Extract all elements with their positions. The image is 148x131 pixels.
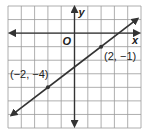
coordinate-graph: y x O (−2, −4) (2, −1) [0, 0, 148, 131]
x-axis-label: x [131, 34, 139, 46]
point-label-a: (−2, −4) [10, 68, 49, 80]
point-label-b: (2, −1) [104, 50, 136, 62]
y-axis-label: y [78, 6, 86, 18]
origin-label: O [63, 35, 72, 47]
